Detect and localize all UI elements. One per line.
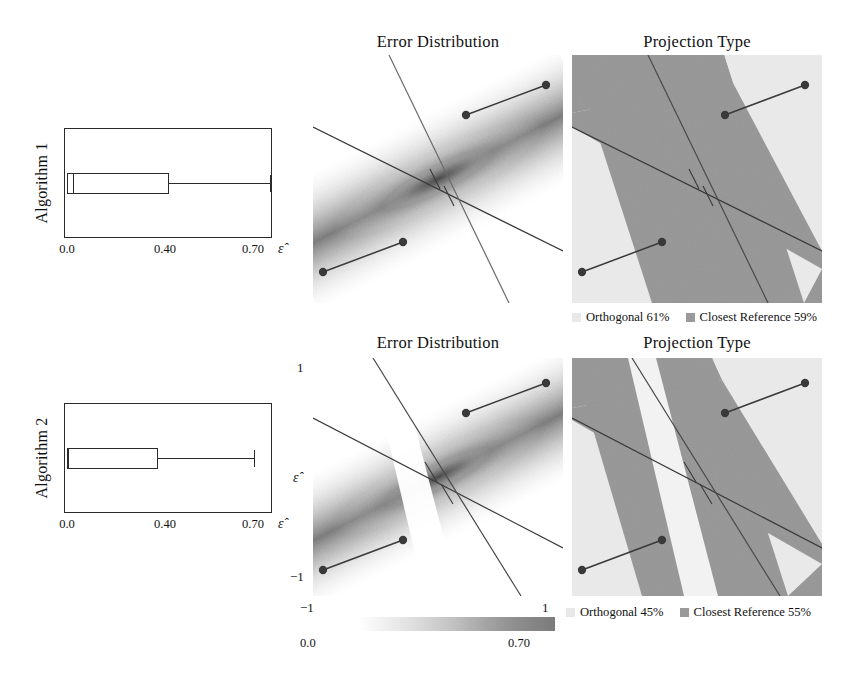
legend-swatch-closest-icon [680,608,689,617]
row-label-algorithm-1: Algorithm 1 [33,123,51,243]
legend-closest-label-algorithm-1: Closest Reference 59% [700,310,818,325]
error-distribution-ytick-max: 1 [297,360,304,376]
boxplot-cap-upper-algorithm-2 [254,450,255,467]
error-distribution-panel-algorithm-2 [313,358,563,596]
error-distribution-xtick-min: −1 [300,600,314,616]
legend-swatch-orthogonal-icon [572,313,581,322]
projection-type-map-algorithm-2 [572,358,822,596]
boxplot-box-algorithm-1 [67,173,169,194]
projection-legend-algorithm-1: Orthogonal 61% Closest Reference 59% [572,310,817,325]
boxplot-axis-symbol-algorithm-1: ε̂ [278,241,284,257]
legend-swatch-orthogonal-icon [566,608,575,617]
row-label-algorithm-2: Algorithm 2 [33,398,51,518]
legend-orthogonal-label-algorithm-1: Orthogonal 61% [586,310,670,325]
boxplot-axis-symbol-algorithm-2: ε̂ [278,516,284,532]
error-distribution-panel-algorithm-1 [313,55,563,303]
boxplot-xtick-1-algorithm-2: 0.40 [145,517,185,532]
projection-legend-algorithm-2: Orthogonal 45% Closest Reference 55% [566,605,811,620]
projection-type-map-algorithm-1 [572,55,822,303]
legend-swatch-closest-icon [686,313,695,322]
boxplot-xtick-2-algorithm-2: 0.70 [233,517,273,532]
legend-closest-label-algorithm-2: Closest Reference 55% [694,605,812,620]
colorbar-min-label: 0.0 [300,636,316,651]
projection-type-title-row2: Projection Type [572,333,822,353]
error-distribution-ytick-min: −1 [290,569,304,585]
colorbar-max-label: 0.70 [508,636,530,651]
error-distribution-heatmap-algorithm-2 [313,358,563,596]
boxplot-xtick-2-algorithm-1: 0.70 [233,242,273,257]
projection-type-panel-algorithm-2 [572,358,822,596]
boxplot-whisker-upper-algorithm-2 [157,458,255,459]
error-distribution-title-row2: Error Distribution [313,333,563,353]
colorbar [358,617,555,631]
boxplot-frame-algorithm-1 [64,128,272,238]
error-distribution-xtick-max: 1 [542,600,549,616]
projection-type-title-row1: Projection Type [572,32,822,52]
boxplot-median-algorithm-2 [68,449,69,468]
boxplot-xtick-0-algorithm-1: 0.0 [47,242,87,257]
projection-type-panel-algorithm-1 [572,55,822,303]
boxplot-xtick-1-algorithm-1: 0.40 [145,242,185,257]
error-distribution-title-row1: Error Distribution [313,32,563,52]
boxplot-median-algorithm-1 [73,174,74,193]
boxplot-frame-algorithm-2 [64,403,272,513]
boxplot-cap-upper-algorithm-1 [270,175,271,192]
error-distribution-yaxis-symbol: ε̂ [293,470,299,486]
boxplot-box-algorithm-2 [67,448,158,469]
legend-orthogonal-label-algorithm-2: Orthogonal 45% [580,605,664,620]
boxplot-whisker-upper-algorithm-1 [168,183,271,184]
figure-canvas: Error Distribution Projection Type Algor… [0,0,864,676]
boxplot-xtick-0-algorithm-2: 0.0 [47,517,87,532]
error-distribution-heatmap-algorithm-1 [313,55,563,303]
